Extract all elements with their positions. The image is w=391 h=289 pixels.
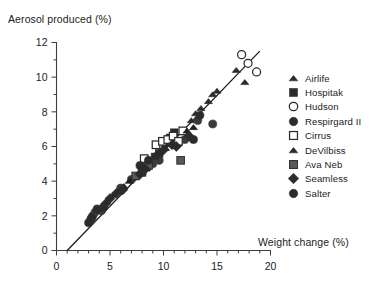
data-point bbox=[189, 125, 197, 130]
legend-marker-triangle-filled-icon bbox=[287, 144, 300, 157]
marker-square bbox=[290, 161, 298, 169]
marker-triangle bbox=[213, 88, 221, 93]
legend-marker-square-hatched-icon bbox=[287, 158, 300, 171]
legend-glyph bbox=[289, 103, 297, 111]
legend-glyph bbox=[289, 75, 298, 80]
marker-circle bbox=[196, 111, 204, 119]
data-point bbox=[253, 68, 261, 76]
legend-marker-diamond-filled-icon bbox=[287, 172, 300, 185]
legend-item-respirgard-ii[interactable]: Respirgard II bbox=[287, 114, 389, 128]
marker-circle bbox=[189, 136, 197, 144]
y-tick-label: 8 bbox=[42, 106, 48, 118]
legend-label: Airlife bbox=[305, 73, 330, 84]
marker-circle bbox=[238, 51, 246, 59]
legend-item-airlife[interactable]: Airlife bbox=[287, 71, 389, 85]
marker-circle bbox=[253, 68, 261, 76]
marker-triangle bbox=[289, 75, 298, 80]
legend-glyph bbox=[289, 189, 297, 197]
data-point bbox=[232, 67, 240, 72]
marker-square bbox=[177, 157, 185, 165]
data-point bbox=[196, 111, 204, 119]
x-tick-label: 20 bbox=[265, 260, 277, 272]
legend-label: DeVilbiss bbox=[305, 145, 346, 156]
legend-marker-circle-filled-icon bbox=[287, 187, 300, 200]
data-point bbox=[177, 157, 185, 165]
y-tick-label: 10 bbox=[36, 71, 48, 83]
data-point bbox=[238, 51, 246, 59]
y-tick-label: 0 bbox=[42, 244, 48, 256]
legend-label: Hospitak bbox=[305, 87, 343, 98]
marker-circle bbox=[145, 156, 153, 164]
legend-marker-circle-filled-icon bbox=[287, 115, 300, 128]
y-tick-label: 2 bbox=[42, 210, 48, 222]
marker-circle bbox=[289, 103, 297, 111]
legend-glyph bbox=[289, 147, 298, 152]
legend-glyph bbox=[288, 174, 298, 184]
marker-square bbox=[290, 89, 298, 97]
x-tick-label: 5 bbox=[107, 260, 113, 272]
data-point bbox=[88, 214, 96, 222]
marker-triangle bbox=[189, 125, 197, 130]
x-tick-label: 0 bbox=[54, 260, 60, 272]
data-point bbox=[189, 136, 197, 144]
legend-label: Seamless bbox=[305, 173, 348, 184]
marker-circle bbox=[88, 214, 96, 222]
legend-label: Ava Neb bbox=[305, 159, 342, 170]
legend-marker-square-open-icon bbox=[287, 129, 300, 142]
legend-marker-square-filled-icon bbox=[287, 86, 300, 99]
legend-item-salter[interactable]: Salter bbox=[287, 186, 389, 200]
marker-circle bbox=[209, 120, 217, 128]
legend-label: Respirgard II bbox=[305, 116, 361, 127]
marker-square bbox=[290, 132, 298, 140]
legend-label: Hudson bbox=[305, 101, 339, 112]
legend-item-devilbiss[interactable]: DeVilbiss bbox=[287, 143, 389, 157]
legend-glyph bbox=[289, 117, 297, 125]
marker-circle bbox=[244, 59, 252, 67]
marker-triangle bbox=[241, 80, 249, 85]
data-point bbox=[213, 88, 221, 93]
marker-triangle bbox=[197, 106, 205, 111]
legend-glyph bbox=[290, 161, 298, 169]
data-point bbox=[209, 120, 217, 128]
legend-label: Salter bbox=[305, 188, 331, 199]
marker-triangle bbox=[232, 67, 240, 72]
data-point bbox=[241, 80, 249, 85]
x-tick-label: 10 bbox=[158, 260, 170, 272]
legend-label: Cirrus bbox=[305, 130, 331, 141]
data-point bbox=[145, 156, 153, 164]
marker-triangle bbox=[289, 147, 298, 152]
marker-circle bbox=[100, 203, 108, 211]
legend-marker-triangle-filled-icon bbox=[287, 72, 300, 85]
legend-glyph bbox=[290, 89, 298, 97]
legend-marker-circle-open-icon bbox=[287, 100, 300, 113]
marker-circle bbox=[136, 162, 144, 170]
x-tick-label: 15 bbox=[211, 260, 223, 272]
data-point bbox=[136, 162, 144, 170]
y-tick-label: 6 bbox=[42, 140, 48, 152]
data-point bbox=[100, 203, 108, 211]
marker-circle bbox=[289, 189, 297, 197]
y-tick-label: 4 bbox=[42, 175, 48, 187]
legend-item-hudson[interactable]: Hudson bbox=[287, 100, 389, 114]
marker-circle bbox=[289, 117, 297, 125]
marker-diamond bbox=[288, 174, 298, 184]
data-point bbox=[244, 59, 252, 67]
data-point bbox=[197, 106, 205, 111]
legend-item-ava-neb[interactable]: Ava Neb bbox=[287, 157, 389, 171]
legend: AirlifeHospitakHudsonRespirgard IICirrus… bbox=[287, 71, 389, 201]
legend-glyph bbox=[290, 132, 298, 140]
scatter-plot-figure: Aerosol produced (%) Weight change (%) 0… bbox=[0, 0, 391, 289]
legend-item-seamless[interactable]: Seamless bbox=[287, 172, 389, 186]
legend-item-hospitak[interactable]: Hospitak bbox=[287, 85, 389, 99]
legend-item-cirrus[interactable]: Cirrus bbox=[287, 129, 389, 143]
y-tick-label: 12 bbox=[36, 36, 48, 48]
